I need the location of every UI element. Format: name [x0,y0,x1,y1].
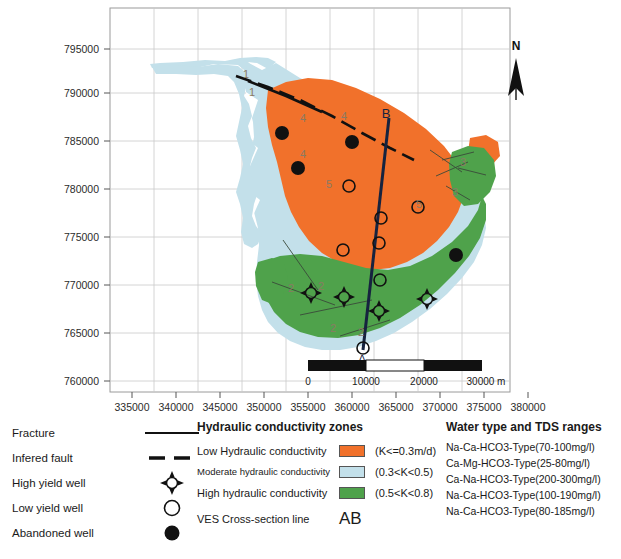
contour-label: 3 [452,186,458,198]
x-axis-tick-label: 365000 [378,401,413,413]
fracture-line-icon [141,426,203,440]
legend-label-abandoned-well: Abandoned well [12,527,94,539]
contour-label: 4 [341,110,347,122]
low-yield-well-icon [161,497,183,519]
legend-row-moderate-conductivity: Moderate hydraulic conductivity (0.3<K<0… [197,461,442,482]
legend-hydraulic-conductivity: Hydraulic conductivity zones Low Hydraul… [197,420,442,532]
contour-label: 3 [460,156,466,168]
contour-label: 5 [326,178,332,190]
y-axis: 795000 790000 785000 780000 775000 77000… [64,43,110,387]
legend-label-low-yield-well: Low yield well [12,502,83,514]
legend-range-high-conductivity: (0.5<K<0.8) [375,487,433,499]
legend-label-ves-cross-section: VES Cross-section line [197,513,339,525]
legend-water-row: Ca-Na-HCO3-Type(200-300mg/l) [446,471,618,487]
x-axis-tick-label: 360000 [334,401,369,413]
x-axis-tick-label: 340000 [158,401,193,413]
y-axis-tick-label: 790000 [64,87,99,99]
contour-label: 2 [288,282,294,294]
scale-bar-segment [366,360,424,371]
legend-row-high-conductivity: High hydraulic conductivity (0.5<K<0.8) [197,482,442,503]
dashed-fault-line-icon [141,451,203,465]
ves-cross-section-icon: AB [339,509,362,529]
contour-label: 2 [318,280,324,292]
map-figure: B A [0,0,621,420]
cross-section-label-b: B [382,106,391,121]
contour-label: 1 [249,86,255,98]
y-axis-tick-label: 770000 [64,279,99,291]
legend-swatch-moderate-conductivity [339,466,365,478]
legend-water-row: Na-Ca-HCO3-Type(70-100mg/l) [446,439,618,455]
scale-tick-label: 10000 [352,376,380,387]
hydrogeological-map: B A [0,0,621,420]
contour-label: 4 [300,148,306,160]
y-axis-tick-label: 785000 [64,135,99,147]
legend-label-fracture: Fracture [12,427,55,439]
legend-range-low-conductivity: (K<=0.3m/d) [375,445,436,457]
legend-label-high-yield-well: High yield well [12,477,86,489]
abandoned-well[interactable] [291,161,305,175]
legend-range-moderate-conductivity: (0.3<K<0.5) [375,466,433,478]
legend-label-moderate-conductivity: Moderate hydraulic conductivity [197,466,339,477]
abandoned-well[interactable] [275,126,289,140]
y-axis-tick-label: 795000 [64,43,99,55]
legend-row-low-conductivity: Low Hydraulic conductivity (K<=0.3m/d) [197,440,442,461]
x-axis-tick-label: 350000 [246,401,281,413]
legend-row-ves-cross-section: VES Cross-section line AB [197,506,442,532]
legend-hydraulic-title: Hydraulic conductivity zones [197,420,442,434]
x-axis-tick-label: 345000 [202,401,237,413]
legend-label-low-conductivity: Low Hydraulic conductivity [197,445,339,457]
legend-water-row: Ca-Mg-HCO3-Type(25-80mg/l) [446,455,618,471]
abandoned-well[interactable] [345,135,359,149]
x-axis-tick-label: 335000 [114,401,149,413]
x-axis-tick-label: 375000 [466,401,501,413]
y-axis-tick-label: 775000 [64,231,99,243]
x-axis-tick-label: 370000 [422,401,457,413]
scale-bar-segment [308,360,366,371]
x-axis-tick-label: 380000 [510,401,545,413]
contour-label: 5 [416,198,422,210]
scale-tick-label: 30000 m [467,376,506,387]
contour-label: 2 [330,322,336,334]
scale-tick-label: 0 [305,376,311,387]
abandoned-well-icon [161,522,183,544]
legend-water-types: Water type and TDS ranges Na-Ca-HCO3-Typ… [446,420,618,519]
legend-symbols: Fracture Infered fault High yield well L… [12,420,197,545]
legend-water-title: Water type and TDS ranges [446,420,618,434]
y-axis-tick-label: 765000 [64,327,99,339]
legend-area: Fracture Infered fault High yield well L… [0,420,621,559]
legend-water-row: Na-Ca-HCO3-Type(80-185mg/l) [446,503,618,519]
legend-label-inferred-fault: Infered fault [12,452,73,464]
contour-label: 1 [243,68,249,80]
legend-water-row: Na-Ca-HCO3-Type(100-190mg/l) [446,487,618,503]
abandoned-well[interactable] [449,248,463,262]
y-axis-tick-label: 780000 [64,183,99,195]
y-axis-tick-label: 760000 [64,375,99,387]
x-axis: 335000 340000 345000 350000 355000 36000… [114,392,545,413]
legend-swatch-high-conductivity [339,487,365,499]
x-axis-tick-label: 355000 [290,401,325,413]
north-label: N [512,39,521,53]
scale-tick-label: 20000 [410,376,438,387]
high-yield-well-icon [157,470,187,496]
legend-label-high-conductivity: High hydraulic conductivity [197,487,339,499]
scale-bar-segment [424,360,482,371]
contour-label: 2 [358,326,364,338]
legend-swatch-low-conductivity [339,445,365,457]
contour-label: 4 [300,112,306,124]
